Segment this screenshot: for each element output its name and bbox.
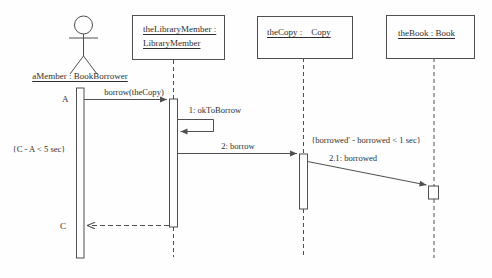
- activation-bar-thelibrarymember: [170, 99, 178, 227]
- constraint-c-a-5sec: {C - A < 5 sec}: [8, 144, 70, 154]
- actor-figure: [69, 16, 98, 74]
- message-label-2-borrow: 2: borrow: [208, 141, 268, 151]
- constraint-borrowed-1sec: {borrowed′ - borrowed < 1 sec}: [306, 135, 426, 145]
- object-box-thelibrarymember: theLibraryMember : LibraryMember: [132, 15, 225, 60]
- message-arrow-oktoborrow-self: [178, 120, 214, 132]
- actor-label: aMember : BookBorrower: [22, 71, 138, 81]
- object-label-line1: theBook : Book: [398, 26, 474, 40]
- message-label-2-1-borrowed: 2.1: borrowed: [318, 153, 388, 163]
- actor-head: [75, 16, 93, 34]
- object-label-line2: LibraryMember: [143, 36, 224, 50]
- message-arrow-2-1-borrowed: [308, 162, 427, 186]
- object-box-thecopy: theCopy : Copy: [257, 16, 353, 59]
- message-label-borrow-thecopy: borrow(theCopy): [93, 87, 175, 97]
- message-label-oktoborrow: 1: okToBorrow: [184, 105, 246, 115]
- activation-bar-actor: [77, 88, 85, 258]
- object-label-line1: theCopy : Copy: [267, 25, 352, 39]
- time-mark-a: A: [62, 94, 69, 104]
- object-label-line1: theLibraryMember :: [143, 22, 224, 36]
- sequence-diagram: aMember : BookBorrower theLibraryMember …: [0, 0, 492, 278]
- time-mark-c: C: [60, 221, 66, 231]
- activation-bar-thecopy: [300, 154, 308, 209]
- object-box-thebook: theBook : Book: [386, 15, 475, 59]
- activation-bar-thebook: [429, 186, 439, 199]
